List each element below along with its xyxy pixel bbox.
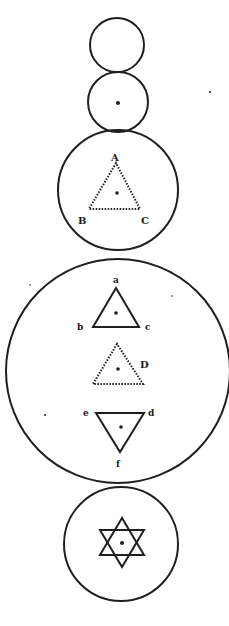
speck	[44, 414, 46, 416]
circle-3	[58, 130, 178, 250]
inverted-triangle-edf	[96, 413, 144, 452]
label-f: f	[116, 459, 121, 469]
label-b: b	[77, 322, 83, 332]
center-point-2	[116, 101, 120, 105]
circle-1	[90, 18, 144, 72]
center-point-3	[115, 191, 119, 195]
label-a: a	[113, 275, 119, 285]
dotted-triangle-abc	[89, 163, 140, 209]
hexagram-up-triangle	[100, 518, 144, 555]
label-D: D	[140, 359, 149, 370]
label-e: e	[83, 408, 89, 418]
label-c: c	[145, 322, 151, 332]
speck	[171, 295, 173, 297]
center-point-abc	[114, 311, 118, 315]
speck	[29, 284, 31, 286]
label-C: C	[141, 215, 149, 226]
label-A: A	[110, 152, 119, 163]
center-point-d	[116, 367, 120, 371]
label-d: d	[148, 408, 155, 418]
dotted-triangle-d	[93, 344, 143, 384]
label-B: B	[78, 215, 86, 226]
center-point-edf	[119, 425, 123, 429]
speck	[209, 91, 211, 93]
triangle-abc-small	[93, 288, 139, 327]
diagram-canvas: A B C a b c D e d f	[0, 0, 229, 626]
center-point-5	[120, 541, 124, 545]
hexagram-down-triangle	[100, 530, 144, 567]
